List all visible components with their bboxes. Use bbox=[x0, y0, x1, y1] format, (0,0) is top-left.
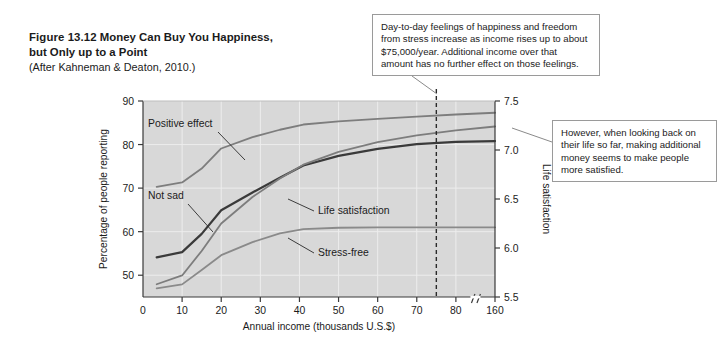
x-tick-label: 70 bbox=[411, 305, 423, 316]
series-label-stress-free: Stress-free bbox=[318, 247, 369, 258]
callout-right-box: However, when looking back on their life… bbox=[552, 120, 717, 182]
y-tick-label-left: 50 bbox=[122, 270, 134, 281]
y-tick-label-right: 7.0 bbox=[504, 145, 519, 156]
plot-background bbox=[143, 101, 495, 297]
x-tick-label: 20 bbox=[215, 305, 227, 316]
x-tick-label: 40 bbox=[294, 305, 306, 316]
y-tick-label-right: 7.5 bbox=[504, 96, 519, 107]
y-tick-label-right: 6.5 bbox=[504, 194, 519, 205]
callout-right-leader bbox=[512, 128, 552, 142]
y-tick-label-left: 90 bbox=[122, 96, 134, 107]
y-tick-label-right: 6.0 bbox=[504, 243, 519, 254]
x-tick-label: 50 bbox=[333, 305, 345, 316]
y-axis-title-left: Percentage of people reporting bbox=[98, 129, 109, 269]
callout-top-box: Day-to-day feelings of happiness and fre… bbox=[372, 14, 600, 76]
x-axis-title: Annual income (thousands U.S.$) bbox=[243, 321, 395, 332]
x-tick-label: 0 bbox=[140, 305, 146, 316]
series-label-life-satisfaction: Life satisfaction bbox=[318, 205, 390, 216]
y-tick-label-left: 80 bbox=[122, 140, 134, 151]
axis-break-gap bbox=[470, 296, 480, 299]
y-tick-label-right: 5.5 bbox=[504, 292, 519, 303]
callout-top-leader bbox=[412, 76, 437, 94]
y-tick-label-left: 60 bbox=[122, 227, 134, 238]
callout-right-text: However, when looking back on their life… bbox=[561, 127, 701, 175]
y-axis-title-right: Life satisfaction bbox=[541, 164, 552, 234]
y-tick-label-left: 70 bbox=[122, 183, 134, 194]
callout-top-text: Day-to-day feelings of happiness and fre… bbox=[381, 21, 587, 69]
x-tick-label: 10 bbox=[176, 305, 188, 316]
x-tick-label: 30 bbox=[255, 305, 267, 316]
series-label-not-sad: Not sad bbox=[148, 190, 184, 201]
x-tick-label-160: 160 bbox=[486, 305, 504, 316]
series-label-positive-effect: Positive effect bbox=[148, 118, 213, 129]
x-tick-label: 80 bbox=[450, 305, 462, 316]
figure-root: Figure 13.12 Money Can Buy You Happiness… bbox=[0, 0, 726, 337]
x-tick-label: 60 bbox=[372, 305, 384, 316]
